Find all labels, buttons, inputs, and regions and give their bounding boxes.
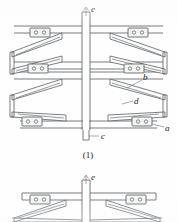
leader-lines-2 — [84, 175, 89, 184]
figure-1-caption: (1) — [83, 150, 94, 160]
label-c: c — [101, 131, 105, 141]
label-e: e — [91, 4, 95, 14]
bracket-bottom-right — [132, 117, 152, 126]
horizontal-beams — [14, 26, 163, 128]
truss-lower-left — [10, 79, 66, 121]
figure-2-drawing: e — [0, 168, 177, 222]
bracket-upper-left — [30, 28, 50, 37]
central-spine-2 — [82, 180, 90, 222]
label-a: a — [165, 123, 170, 133]
bracket-left-2 — [30, 195, 50, 204]
bracket-mid-right — [124, 64, 144, 73]
bracket-bottom-left — [22, 117, 42, 126]
label-e-figure-2: e — [91, 172, 95, 182]
figure-1-drawing: e b d c a (1) — [0, 0, 177, 170]
bracket-right-2 — [126, 195, 146, 204]
bracket-fittings-2 — [30, 195, 146, 204]
figure-stack: e b d c a (1) — [0, 0, 177, 222]
central-spine — [82, 12, 90, 140]
label-d: d — [134, 96, 139, 106]
bracket-upper-right — [128, 28, 148, 37]
label-b: b — [143, 72, 148, 82]
bracket-mid-left — [28, 64, 48, 73]
